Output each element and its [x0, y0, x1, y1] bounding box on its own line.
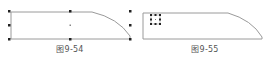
handle-middle-right[interactable]: [129, 24, 132, 27]
handle-top-middle[interactable]: [69, 10, 72, 13]
figure-9-55: [143, 13, 262, 39]
selection-handles[interactable]: [8, 10, 132, 41]
figure-9-54: [8, 10, 132, 41]
figure-caption-9-54: 图9-54: [56, 43, 83, 54]
handle-middle-left[interactable]: [8, 24, 11, 27]
figure-caption-9-55: 图9-55: [191, 43, 218, 54]
blade-shape-outline[interactable]: [143, 13, 262, 39]
handle-bottom-middle[interactable]: [69, 38, 72, 41]
handle-top-left[interactable]: [8, 10, 11, 13]
mini-handle-middle-left[interactable]: [150, 19, 152, 21]
diagram-canvas: [0, 0, 267, 60]
mini-handle-bottom-left[interactable]: [150, 23, 152, 25]
mini-handle-middle-right[interactable]: [159, 19, 161, 21]
mini-handle-top-left[interactable]: [150, 14, 152, 16]
mini-handle-bottom-right[interactable]: [159, 23, 161, 25]
mini-handle-bottom-middle[interactable]: [155, 23, 157, 25]
handle-center[interactable]: [70, 25, 72, 27]
handle-bottom-right[interactable]: [129, 38, 132, 41]
mini-handle-top-middle[interactable]: [155, 14, 157, 16]
small-selection-box[interactable]: [150, 14, 161, 25]
mini-handle-center[interactable]: [155, 19, 156, 20]
handle-bottom-left[interactable]: [8, 38, 11, 41]
handle-top-right[interactable]: [129, 10, 132, 13]
mini-handle-top-right[interactable]: [159, 14, 161, 16]
